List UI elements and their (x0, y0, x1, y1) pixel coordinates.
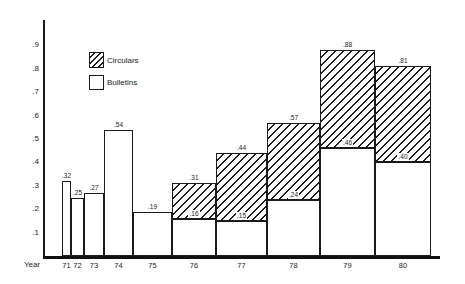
bar-total-label-71: .32 (62, 172, 71, 180)
bar-bulletins-79 (320, 148, 375, 256)
legend-item-circulars: Circulars (89, 52, 139, 68)
y-axis-tick-label: .3 (22, 182, 39, 190)
x-axis-category-71: 71 (62, 261, 71, 270)
bar-total-label-80: .81 (375, 57, 431, 65)
bar-bulletins-label-79: .46 (320, 139, 375, 147)
bar-bulletins-label-78: .24 (267, 191, 320, 199)
bar-bulletins-78 (267, 200, 320, 256)
legend-label-circulars: Circulars (107, 56, 139, 65)
bar-bulletins-label-text: .24 (288, 191, 299, 199)
x-axis-category-79: 79 (320, 261, 375, 270)
bar-bulletins-74 (104, 130, 133, 256)
bar-total-label-75: .19 (133, 203, 172, 211)
bar-total-label-72: .25 (71, 189, 84, 197)
bar-bulletins-label-text: .16 (188, 210, 199, 218)
y-axis-tick-label: .7 (22, 88, 39, 96)
bar-total-label-79: .88 (320, 41, 375, 49)
plot-area: .9.8.7.6.5.4.3.2.1.3271.2572.2773.5474.1… (0, 0, 465, 284)
bar-total-label-73: .27 (84, 184, 104, 192)
y-axis-tick-label: .2 (22, 205, 39, 213)
bar-bulletins-71 (62, 181, 71, 256)
y-axis-tick-label: .6 (22, 112, 39, 120)
legend-item-bulletins: Bulletins (89, 75, 137, 90)
bar-bulletins-label-80: .40 (375, 153, 431, 161)
bulletins-open-swatch-icon (89, 75, 104, 90)
x-axis-category-80: 80 (375, 261, 431, 270)
bar-bulletins-label-76: .16 (172, 210, 216, 218)
bar-bulletins-label-77: .15 (216, 212, 267, 220)
bar-bulletins-label-text: .40 (397, 153, 408, 161)
bar-bulletins-label-text: .46 (342, 139, 353, 147)
y-axis-tick-label: .9 (22, 41, 39, 49)
bar-circulars-79 (320, 50, 375, 148)
x-axis-category-78: 78 (267, 261, 320, 270)
bar-bulletins-72 (71, 198, 84, 257)
bar-total-label-74: .54 (104, 121, 133, 129)
bar-total-label-78: .57 (267, 114, 320, 122)
bar-total-label-76: .31 (172, 174, 216, 182)
x-axis-category-77: 77 (216, 261, 267, 270)
x-axis-category-74: 74 (104, 261, 133, 270)
legend-label-bulletins: Bulletins (107, 78, 137, 87)
bar-circulars-77 (216, 153, 267, 221)
bar-total-label-77: .44 (216, 144, 267, 152)
circulars-hatch-swatch-icon (89, 52, 104, 68)
x-axis-category-73: 73 (84, 261, 104, 270)
x-axis-category-75: 75 (133, 261, 172, 270)
y-axis-tick-label: .4 (22, 158, 39, 166)
bar-circulars-78 (267, 123, 320, 200)
chart-canvas: Year .9.8.7.6.5.4.3.2.1.3271.2572.2773.5… (0, 0, 465, 284)
x-axis-category-76: 76 (172, 261, 216, 270)
bar-bulletins-77 (216, 221, 267, 256)
bar-bulletins-80 (375, 162, 431, 256)
x-axis-category-72: 72 (71, 261, 84, 270)
bar-bulletins-75 (133, 212, 172, 256)
bar-circulars-80 (375, 66, 431, 162)
bar-bulletins-76 (172, 219, 216, 256)
bar-bulletins-label-text: .15 (236, 212, 247, 220)
y-axis-tick-label: .8 (22, 65, 39, 73)
bar-bulletins-73 (84, 193, 104, 256)
y-axis-tick-label: .1 (22, 229, 39, 237)
y-axis-tick-label: .5 (22, 135, 39, 143)
